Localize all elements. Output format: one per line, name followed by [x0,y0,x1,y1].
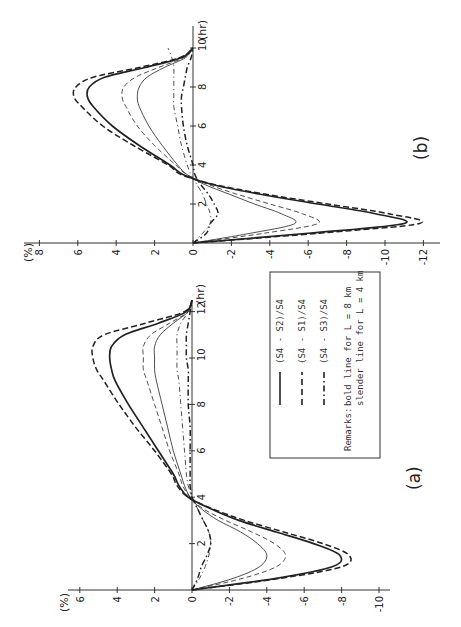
curve-solid-thin [137,48,296,243]
panel-b-curves [73,48,422,243]
x-tick-label: 8 [197,84,208,90]
curve-dashed-bold [73,48,422,243]
y-tick-label: -6 [299,596,310,606]
y-tick-label: -10 [374,596,385,612]
legend-remarks-line2: slender line for L = 4 km [355,271,365,406]
curve-solid-bold [87,48,407,243]
figure-canvas: 246810126420-2-4-6-8-10 (%) (hr) (a) 246… [0,0,461,627]
panel-a-y-unit: (%) [58,593,71,612]
panel-b-y-unit: (%) [22,243,35,262]
x-tick-label: 2 [197,201,208,207]
x-tick-label: 4 [196,494,207,500]
curve-solid-thin [154,300,267,590]
x-tick-label: 6 [196,447,207,453]
x-tick-label: 10 [196,348,207,361]
legend-remarks-line1: bold line for L = 8 km [343,287,353,406]
y-tick-label: -2 [224,596,235,606]
panel-b: 24681086420-2-4-6-8-10-12 (%) (hr) (b) [22,20,440,265]
y-tick-label: 4 [111,249,122,255]
y-tick-label: 8 [34,249,45,255]
y-tick-label: -12 [418,249,429,265]
panel-a-x-unit: (hr) [194,284,207,304]
x-tick-label: 8 [196,401,207,407]
legend-entry-3: (S4 - S3)/S4 [319,299,329,364]
x-tick-label: 2 [196,540,207,546]
legend-remarks-title: Remarks: [343,408,353,451]
y-tick-label: 2 [150,249,161,255]
curve-dashed-thin [143,300,286,590]
panel-b-x-unit: (hr) [196,20,209,40]
curve-dashdot-bold [181,48,218,243]
panel-b-label: (b) [411,136,431,160]
y-tick-label: 0 [187,596,198,602]
curve-dashdot-thin [168,48,211,243]
y-tick-label: 6 [75,596,86,602]
y-tick-label: 0 [188,249,199,255]
y-tick-label: 6 [73,249,84,255]
y-tick-label: -4 [262,596,273,606]
legend-entry-1: (S4 - S2)/S4 [275,299,285,364]
x-tick-label: 4 [197,162,208,168]
y-tick-label: 4 [112,596,123,602]
y-tick-label: 2 [150,596,161,602]
x-tick-label: 6 [197,123,208,129]
y-tick-label: -4 [265,249,276,259]
curve-dashed-thin [122,48,320,243]
y-tick-label: -10 [380,249,391,265]
y-tick-label: -2 [226,249,237,259]
panel-b-ticks: 24681086420-2-4-6-8-10-12 [34,38,429,265]
y-tick-label: -6 [303,249,314,259]
legend-entry-2: (S4 - S1)/S4 [297,299,307,364]
legend: (S4 - S2)/S4 (S4 - S1)/S4 (S4 - S3)/S4 R… [270,271,380,458]
y-tick-label: -8 [337,596,348,606]
panel-a-label: (a) [404,466,424,490]
y-tick-label: -8 [342,249,353,259]
